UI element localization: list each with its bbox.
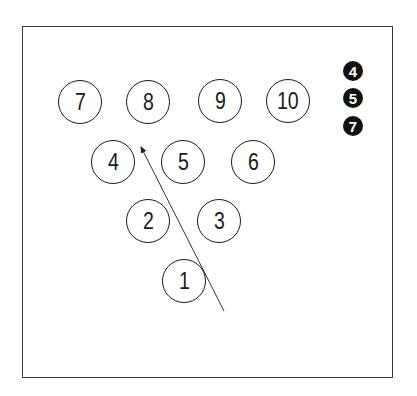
pin-label: 10 xyxy=(277,88,299,115)
pin-4: 4 xyxy=(91,140,135,184)
marker-label: 4 xyxy=(349,63,357,80)
ball-path-arrow xyxy=(0,0,417,396)
pin-3: 3 xyxy=(197,199,241,243)
pin-label: 5 xyxy=(178,149,189,176)
pin-10: 10 xyxy=(266,79,310,123)
pin-6: 6 xyxy=(231,140,275,184)
pin-label: 1 xyxy=(179,268,190,295)
pin-label: 8 xyxy=(143,89,154,116)
pin-5: 5 xyxy=(161,140,205,184)
pin-7: 7 xyxy=(58,80,102,124)
pin-label: 7 xyxy=(75,89,86,116)
remaining-pin-marker-5: 5 xyxy=(343,88,363,108)
pin-label: 4 xyxy=(108,149,119,176)
pin-8: 8 xyxy=(126,80,170,124)
remaining-pin-marker-4: 4 xyxy=(343,61,363,81)
pin-label: 6 xyxy=(248,149,259,176)
pin-2: 2 xyxy=(126,199,170,243)
marker-label: 5 xyxy=(349,90,357,107)
pin-9: 9 xyxy=(198,79,242,123)
marker-label: 7 xyxy=(349,118,357,135)
pin-label: 9 xyxy=(215,88,226,115)
remaining-pin-marker-7: 7 xyxy=(343,116,363,136)
pin-1: 1 xyxy=(162,259,206,303)
pin-label: 3 xyxy=(214,208,225,235)
pin-label: 2 xyxy=(143,208,154,235)
